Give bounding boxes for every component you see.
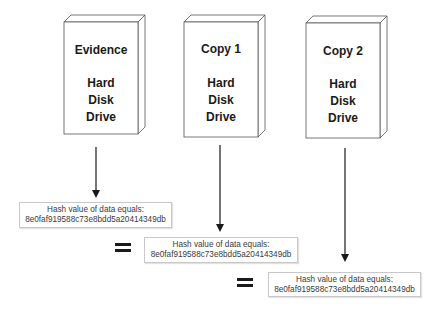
hash-box-evidence: Hash value of data equals: 8e0faf919588c… bbox=[19, 202, 172, 228]
drive-side-face bbox=[138, 15, 145, 134]
hash-value: 8e0faf919588c73e8bdd5a20414349db bbox=[145, 250, 297, 260]
drive-line: Hard bbox=[87, 76, 114, 90]
drive-copy-2: Copy 2 Hard Disk Drive bbox=[306, 16, 387, 138]
drive-title: Evidence bbox=[75, 43, 128, 57]
hash-box-copy-2: Hash value of data equals: 8e0faf919588c… bbox=[268, 272, 421, 297]
hash-label: Hash value of data equals: bbox=[20, 205, 171, 215]
drive-line: Drive bbox=[206, 110, 236, 124]
hash-value: 8e0faf919588c73e8bdd5a20414349db bbox=[20, 215, 171, 225]
equals-bar bbox=[115, 243, 131, 246]
equals-bar bbox=[237, 278, 253, 281]
drive-title: Copy 1 bbox=[201, 42, 241, 56]
equals-sign bbox=[115, 243, 131, 253]
hash-label: Hash value of data equals: bbox=[145, 240, 297, 250]
drive-top-face bbox=[184, 15, 265, 22]
drive-line: Drive bbox=[328, 111, 358, 125]
drive-top-face bbox=[306, 16, 387, 23]
diagram-canvas: Evidence Hard Disk Drive Copy 1 Hard Dis… bbox=[0, 0, 439, 315]
drive-line: Hard bbox=[329, 77, 356, 91]
drive-side-face bbox=[380, 16, 387, 138]
equals-sign bbox=[237, 278, 253, 288]
equals-bar bbox=[115, 249, 131, 252]
drive-top-face bbox=[64, 15, 145, 22]
drive-copy-1: Copy 1 Hard Disk Drive bbox=[184, 15, 265, 137]
drive-line: Disk bbox=[88, 93, 114, 107]
drive-evidence: Evidence Hard Disk Drive bbox=[64, 15, 145, 134]
drive-title: Copy 2 bbox=[323, 44, 363, 58]
drive-line: Disk bbox=[208, 93, 234, 107]
drive-line: Drive bbox=[86, 110, 116, 124]
hash-box-copy-1: Hash value of data equals: 8e0faf919588c… bbox=[144, 237, 298, 263]
hash-label: Hash value of data equals: bbox=[269, 275, 420, 285]
drive-line: Hard bbox=[207, 76, 234, 90]
drive-line: Disk bbox=[330, 94, 356, 108]
hash-value: 8e0faf919588c73e8bdd5a20414349db bbox=[269, 285, 420, 295]
equals-bar bbox=[237, 284, 253, 287]
drive-side-face bbox=[258, 15, 265, 137]
